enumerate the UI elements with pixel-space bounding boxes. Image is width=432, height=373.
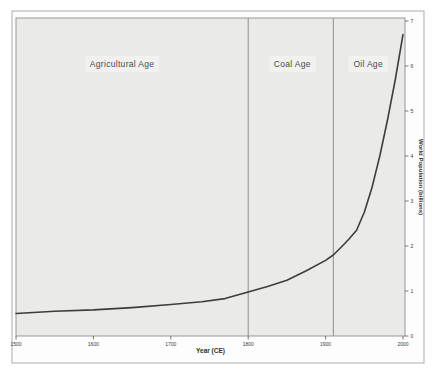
y-tick-label: 2: [411, 243, 414, 249]
x-tick-label: 1500: [10, 341, 21, 347]
y-tick-label: 0: [411, 333, 414, 339]
y-tick-label: 5: [411, 108, 414, 114]
x-tick-label: 1700: [165, 341, 176, 347]
y-tick-label: 4: [411, 153, 414, 159]
y-tick-label: 3: [411, 198, 414, 204]
x-tick-label: 2000: [397, 341, 408, 347]
plot-area: [16, 18, 405, 336]
x-tick-label: 1600: [88, 341, 99, 347]
x-tick-label: 1800: [243, 341, 254, 347]
y-tick-label: 1: [411, 288, 414, 294]
region-label-0: Agricultural Age: [90, 59, 154, 69]
y-axis-title: World Population (billions): [418, 139, 424, 215]
chart-figure: Agricultural AgeCoal AgeOil Age 15001600…: [0, 0, 432, 373]
x-tick-label: 1900: [320, 341, 331, 347]
y-tick-label: 7: [411, 18, 414, 24]
population-chart-svg: Agricultural AgeCoal AgeOil Age 15001600…: [0, 0, 432, 373]
region-label-2: Oil Age: [353, 59, 383, 69]
y-tick-label: 6: [411, 63, 414, 69]
region-label-1: Coal Age: [274, 59, 311, 69]
x-axis-title: Year (CE): [196, 347, 225, 355]
